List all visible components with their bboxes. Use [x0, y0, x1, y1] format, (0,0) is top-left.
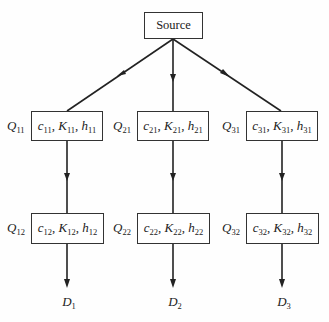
q-label-31: Q31 — [222, 118, 240, 135]
arrow-head-icon — [279, 279, 285, 288]
arrow-head-icon — [64, 173, 70, 181]
arrow-head-icon — [170, 279, 176, 288]
source-label: Source — [156, 18, 191, 33]
q-label-21: Q21 — [113, 118, 131, 135]
arrow-head-icon — [170, 173, 176, 181]
demand-label-2: D2 — [168, 294, 182, 311]
arrow-head-icon — [64, 279, 70, 288]
node-31: c31, K31, h31 — [246, 111, 318, 141]
q-label-32: Q32 — [222, 220, 240, 237]
demand-label-3: D3 — [277, 294, 291, 311]
supply-chain-diagram: Source Q11 c11, K11, h11 Q12 c12, K12, h… — [0, 0, 329, 322]
node-22: c22, K22, h22 — [137, 213, 210, 244]
node-32: c32, K32, h32 — [246, 213, 319, 244]
node-11: c11, K11, h11 — [31, 111, 103, 141]
q-label-22: Q22 — [113, 220, 131, 237]
q-label-12: Q12 — [7, 220, 25, 237]
arrow-head-icon — [220, 69, 230, 77]
source-node: Source — [144, 12, 203, 39]
arrow-head-icon — [170, 74, 176, 82]
connector-lines — [0, 0, 329, 322]
demand-label-1: D1 — [62, 294, 76, 311]
node-21: c21, K21, h21 — [137, 111, 209, 141]
q-label-11: Q11 — [7, 118, 25, 135]
arrow-head-icon — [279, 173, 285, 181]
node-12: c12, K12, h12 — [31, 213, 104, 244]
